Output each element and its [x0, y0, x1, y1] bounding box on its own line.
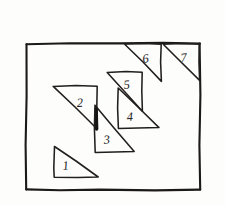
triangle-3-label: 3 [102, 132, 110, 147]
triangle-4-label: 4 [126, 110, 133, 124]
triangle-4-outline [118, 88, 159, 128]
triangles-diagram: 1 2 3 4 5 6 7 [0, 0, 225, 205]
triangle-5: 5 [107, 72, 142, 112]
triangle-5-label: 5 [123, 77, 131, 92]
triangle-1: 1 [54, 147, 98, 178]
triangle-1-outline [54, 147, 98, 178]
triangle-6-label: 6 [141, 51, 150, 66]
outer-rectangle-frame [26, 43, 201, 191]
triangle-4: 4 [118, 88, 159, 128]
triangle-7: 7 [163, 43, 199, 80]
triangle-7-label: 7 [180, 50, 188, 65]
triangle-2-outline [53, 86, 97, 130]
triangle-2-label: 2 [76, 96, 83, 110]
frame-left-edge [26, 44, 27, 189]
triangle-1-label: 1 [62, 158, 70, 173]
triangle-2: 2 [53, 86, 97, 130]
frame-bottom-edge [26, 189, 200, 190]
sketch-canvas: 1 2 3 4 5 6 7 [0, 0, 225, 205]
